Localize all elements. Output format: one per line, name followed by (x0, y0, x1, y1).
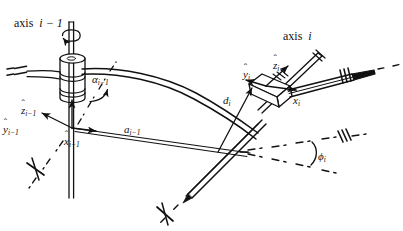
phi-joint-angle (240, 129, 366, 173)
label-d-i: di (223, 95, 231, 107)
previous-link-stub (7, 66, 60, 79)
joint-cylinder-i-minus-1 (60, 54, 85, 103)
figure-canvas: axis i − 1 axis i αi−1 ai−1 di ϕi ˆzi−1 … (0, 0, 403, 231)
label-phi-i: ϕi (318, 151, 326, 163)
label-y-hat-i-minus-1: ˆyi−1 (3, 124, 19, 136)
label-x-hat-i-minus-1: ˆxi−1 (64, 136, 80, 148)
label-y-hat-i: ˆyi (243, 69, 250, 81)
label-alpha-i-minus-1: αi−1 (92, 74, 109, 86)
alpha-twist-angle-arc (78, 62, 116, 124)
label-x-hat-i: ˆxi (293, 95, 300, 107)
kinematic-diagram-svg (0, 0, 403, 231)
axis-i-minus-1-rotation-arrow (63, 30, 81, 41)
link-i-right (288, 64, 401, 97)
label-z-hat-i: ˆzi (273, 60, 279, 72)
label-z-hat-i-minus-1: ˆzi−1 (21, 105, 36, 117)
label-a-i-minus-1: ai−1 (124, 124, 140, 136)
axis-i-dashed-continuation (157, 203, 178, 225)
label-axis-i-minus-1: axis i − 1 (14, 17, 63, 29)
axis-i-minus-1-shaft (69, 22, 74, 198)
label-axis-i: axis i (283, 30, 312, 42)
axis-i-lower-shaft (183, 120, 266, 203)
dashed-axis-lower-left (27, 141, 63, 188)
